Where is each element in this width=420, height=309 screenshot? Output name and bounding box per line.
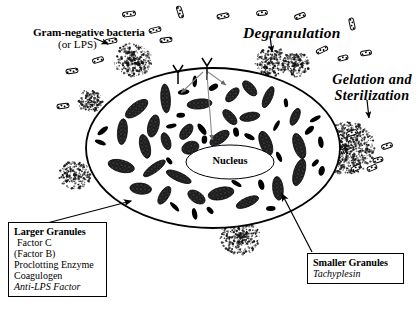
gelation-line-1: Gelation and bbox=[324, 72, 420, 88]
rod-shaped-bacterium-icon bbox=[176, 6, 184, 19]
larger-granules-box: Larger Granules Factor C (Factor B) Proc… bbox=[8, 222, 107, 297]
gram-negative-bacteria-label: Gram-negative bacteria bbox=[33, 26, 145, 39]
rod-shaped-bacterium-icon bbox=[217, 13, 230, 20]
rod-shaped-bacterium-icon bbox=[373, 156, 384, 163]
gel-clot-cloud-icon bbox=[281, 53, 309, 77]
larger-granules-heading: Larger Granules bbox=[14, 226, 101, 237]
larger-granules-item-4: Coagulogen bbox=[14, 270, 101, 281]
gel-clot-cloud-icon bbox=[78, 90, 104, 112]
rod-shaped-bacterium-icon bbox=[367, 164, 378, 172]
rod-shaped-bacterium-icon bbox=[349, 18, 356, 31]
gelation-line-2: Sterilization bbox=[324, 88, 420, 104]
gel-clot-cloud-icon bbox=[58, 161, 91, 190]
smaller-granules-heading: Smaller Granules bbox=[313, 257, 398, 268]
rod-shaped-bacterium-icon bbox=[294, 12, 306, 20]
larger-granules-item-3: Proclotting Enzyme bbox=[14, 259, 101, 270]
gel-clot-cloud-icon bbox=[114, 43, 152, 78]
larger-granules-item-2: (Factor B) bbox=[14, 248, 101, 259]
rod-shaped-bacterium-icon bbox=[350, 164, 361, 173]
rod-shaped-bacterium-icon bbox=[316, 45, 329, 54]
figure-canvas: Gram-negative bacteria (or LPS) Degranul… bbox=[0, 0, 420, 309]
rod-shaped-bacterium-icon bbox=[57, 103, 70, 109]
smaller-granules-box: Smaller Granules Tachyplesin bbox=[307, 253, 404, 284]
larger-granules-item-5: Anti-LPS Factor bbox=[14, 281, 101, 292]
rod-shaped-bacterium-icon bbox=[256, 10, 267, 16]
gelation-sterilization-label: Gelation and Sterilization bbox=[324, 72, 420, 104]
rod-shaped-bacterium-icon bbox=[92, 56, 104, 63]
smaller-granules-item-1: Tachyplesin bbox=[313, 268, 398, 279]
rod-shaped-bacterium-icon bbox=[149, 26, 162, 33]
nucleus-label: Nucleus bbox=[194, 155, 266, 167]
larger-granules-item-1: Factor C bbox=[14, 237, 101, 248]
rod-shaped-bacterium-icon bbox=[338, 55, 349, 62]
rod-shaped-bacterium-icon bbox=[160, 37, 173, 43]
rod-shaped-bacterium-icon bbox=[122, 11, 136, 17]
degranulation-label: Degranulation bbox=[243, 24, 341, 41]
or-lps-label: (or LPS) bbox=[58, 38, 97, 51]
rod-shaped-bacterium-icon bbox=[360, 50, 372, 56]
rod-shaped-bacterium-icon bbox=[66, 68, 79, 74]
rod-shaped-bacterium-icon bbox=[381, 142, 393, 150]
